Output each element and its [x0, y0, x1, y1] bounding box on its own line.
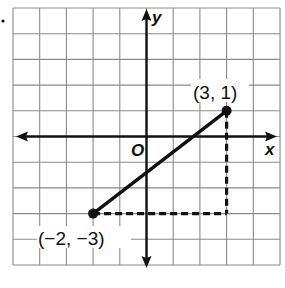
origin-label: O: [131, 141, 144, 160]
bullet-dot: [1, 19, 4, 22]
coordinate-plane-figure: (3, 1) (−2, −3) y x O: [0, 0, 285, 288]
point-label-a: (3, 1): [193, 82, 237, 103]
x-axis-label: x: [264, 140, 276, 159]
point-label-b: (−2, −3): [38, 228, 105, 249]
y-axis: [142, 9, 152, 268]
point-a: [222, 106, 232, 116]
y-axis-label: y: [151, 8, 163, 27]
point-b: [88, 209, 98, 219]
